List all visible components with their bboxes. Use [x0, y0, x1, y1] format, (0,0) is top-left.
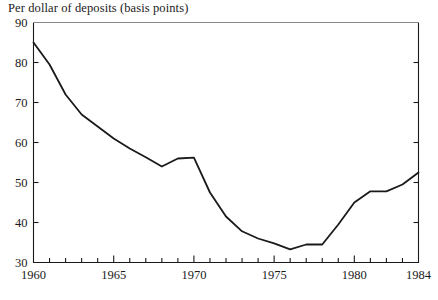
line-chart-plot: 30405060708090 196019651970197519801984	[0, 0, 438, 300]
y-tick-label: 80	[15, 56, 28, 70]
y-tick-label: 60	[15, 136, 28, 150]
x-axis-tick-labels: 196019651970197519801984	[21, 268, 432, 282]
y-tick-label: 90	[15, 16, 28, 30]
chart-axes	[34, 23, 419, 263]
chart-page: Per dollar of deposits (basis points) 30…	[0, 0, 438, 300]
x-tick-label: 1984	[406, 268, 432, 282]
y-tick-label: 50	[15, 176, 28, 190]
data-series-line	[34, 43, 419, 250]
chart-tick-marks	[34, 63, 419, 263]
y-tick-label: 40	[15, 216, 28, 230]
x-tick-label: 1970	[181, 268, 206, 282]
x-tick-label: 1960	[21, 268, 46, 282]
x-tick-label: 1965	[101, 268, 126, 282]
x-tick-label: 1975	[262, 268, 287, 282]
x-tick-label: 1980	[342, 268, 367, 282]
y-axis-tick-labels: 30405060708090	[15, 16, 28, 270]
y-tick-label: 70	[15, 96, 28, 110]
